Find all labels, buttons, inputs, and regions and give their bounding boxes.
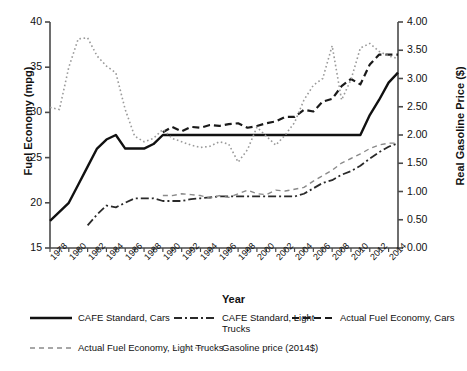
chart-legend: CAFE Standard, CarsCAFE Standard, Light …	[0, 303, 467, 371]
y-tick-label-right: 1.00	[407, 185, 441, 197]
y-tick-label-left: 35	[12, 60, 42, 72]
y-axis-title-right: Real Gasoline Price ($)	[454, 41, 466, 211]
series-line-1	[88, 143, 398, 225]
series-line-3	[163, 143, 398, 198]
y-tick-label-right: 2.00	[407, 128, 441, 140]
y-tick-label-left: 25	[12, 151, 42, 163]
series-line-2	[163, 55, 398, 133]
fuel-economy-chart: Fuel Economy (mpg) Real Gasoline Price (…	[0, 0, 467, 371]
legend-swatch-icon	[28, 313, 74, 323]
y-tick-label-right: 3.00	[407, 72, 441, 84]
legend-swatch-icon	[172, 313, 218, 323]
series-line-0	[50, 73, 398, 221]
legend-swatch-icon	[290, 313, 336, 323]
y-tick-label-left: 40	[12, 15, 42, 27]
y-tick-label-right: 2.50	[407, 100, 441, 112]
y-tick-label-right: 4.00	[407, 15, 441, 27]
y-tick-label-right: 1.50	[407, 156, 441, 168]
y-tick-label-right: 3.50	[407, 43, 441, 55]
legend-swatch-icon	[172, 343, 218, 353]
legend-label: Actual Fuel Economy, Cars	[340, 312, 467, 323]
y-tick-label-right: 0.50	[407, 213, 441, 225]
y-tick-label-right: 0.00	[407, 241, 441, 253]
y-tick-label-left: 20	[12, 196, 42, 208]
y-tick-label-left: 30	[12, 105, 42, 117]
legend-swatch-icon	[28, 343, 74, 353]
y-tick-label-left: 15	[12, 241, 42, 253]
legend-label: Gasoline price (2014$)	[222, 342, 382, 353]
